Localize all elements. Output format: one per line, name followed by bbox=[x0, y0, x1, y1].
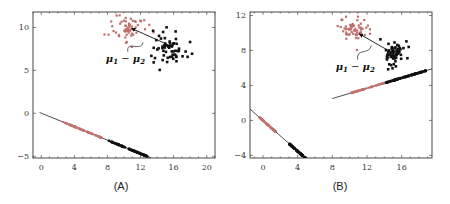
plot-frame bbox=[33, 12, 215, 158]
annotation-pointer bbox=[128, 42, 143, 51]
plot-area bbox=[250, 11, 432, 160]
scatter-plot-b: 0481216−404812μ1 − μ2 bbox=[225, 0, 450, 204]
annotation-pointer bbox=[357, 45, 371, 59]
caption-b: (B) bbox=[320, 180, 360, 192]
y-tick-label: 4 bbox=[241, 81, 246, 90]
chart-panel-a: 048121620−50510μ1 − μ2 (A) bbox=[0, 0, 225, 204]
x-tick-label: 12 bbox=[135, 163, 145, 172]
caption-a: (A) bbox=[101, 180, 141, 192]
y-tick-label: 0 bbox=[241, 116, 246, 125]
mean-difference-arrow bbox=[359, 34, 391, 52]
y-tick-label: 5 bbox=[24, 66, 29, 75]
y-tick-label: 0 bbox=[24, 109, 29, 118]
x-tick-label: 20 bbox=[202, 163, 212, 172]
x-tick-label: 0 bbox=[39, 163, 44, 172]
x-tick-label: 0 bbox=[260, 163, 265, 172]
y-tick-label: 10 bbox=[19, 23, 29, 32]
y-tick-label: 8 bbox=[241, 46, 246, 55]
x-tick-label: 8 bbox=[105, 163, 110, 172]
y-tick-label: 12 bbox=[236, 11, 246, 20]
chart-panel-b: 0481216−404812μ1 − μ2 (B) bbox=[225, 0, 450, 204]
plot-frame bbox=[250, 12, 432, 158]
x-tick-label: 4 bbox=[295, 163, 300, 172]
x-tick-label: 16 bbox=[397, 163, 407, 172]
x-tick-label: 8 bbox=[330, 163, 335, 172]
annotation-label: μ1 − μ2 bbox=[336, 61, 375, 74]
annotation-label: μ1 − μ2 bbox=[106, 53, 145, 66]
y-tick-label: −4 bbox=[234, 151, 246, 160]
x-tick-label: 12 bbox=[362, 163, 372, 172]
scatter-plot-a: 048121620−50510μ1 − μ2 bbox=[0, 0, 225, 204]
plot-area bbox=[40, 10, 194, 158]
x-tick-label: 4 bbox=[72, 163, 77, 172]
y-tick-label: −5 bbox=[17, 152, 29, 161]
x-tick-label: 16 bbox=[169, 163, 179, 172]
